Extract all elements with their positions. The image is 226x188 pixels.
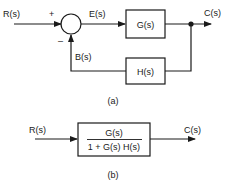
output-label-c-b: C(s) bbox=[184, 125, 201, 135]
diagram-b: R(s) G(s) 1 + G(s) H(s) C(s) (b) bbox=[29, 123, 201, 180]
forward-block-label: G(s) bbox=[137, 20, 155, 30]
caption-b: (b) bbox=[108, 170, 119, 180]
feedback-label-b: B(s) bbox=[75, 52, 92, 62]
diagram-a: R(s) + – E(s) G(s) C(s) H(s) B(s) (a) bbox=[3, 8, 221, 106]
minus-sign: – bbox=[58, 36, 63, 46]
feedback-line-right bbox=[165, 24, 191, 71]
output-label-c: C(s) bbox=[204, 8, 221, 18]
transfer-denominator: 1 + G(s) H(s) bbox=[88, 142, 140, 152]
input-label-r-b: R(s) bbox=[29, 125, 46, 135]
error-label-e: E(s) bbox=[89, 9, 106, 19]
transfer-numerator: G(s) bbox=[105, 128, 123, 138]
caption-a: (a) bbox=[108, 96, 119, 106]
block-diagram-canvas: R(s) + – E(s) G(s) C(s) H(s) B(s) (a) R(… bbox=[0, 0, 226, 188]
feedback-block-label: H(s) bbox=[137, 67, 154, 77]
summing-junction bbox=[61, 14, 81, 34]
plus-sign: + bbox=[49, 9, 54, 19]
input-label-r: R(s) bbox=[3, 9, 20, 19]
